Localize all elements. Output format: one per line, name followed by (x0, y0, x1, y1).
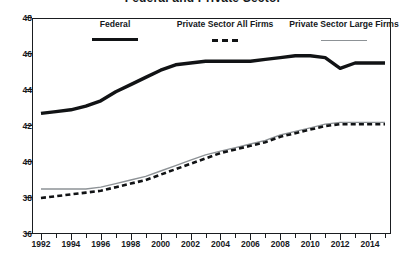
legend-line-sample (92, 38, 138, 41)
y-axis-label: 48 (8, 14, 32, 23)
x-axis-minor-tick (295, 234, 296, 238)
x-axis-minor-tick (206, 234, 207, 238)
y-axis-label: 42 (8, 122, 32, 131)
plot-lines (32, 18, 391, 234)
series-line (41, 124, 385, 198)
legend-line-sample (212, 39, 238, 42)
x-axis-minor-tick (265, 234, 266, 238)
legend-swatch-solid-thin-gray (264, 35, 406, 43)
x-axis-minor-tick (146, 234, 147, 238)
y-axis-label: 44 (8, 86, 32, 95)
chart-container: Federal and Private Sector 3638404244464… (0, 0, 406, 261)
x-axis-minor-tick (235, 234, 236, 238)
x-axis-minor-tick (385, 234, 386, 238)
chart-title: Federal and Private Sector (0, 0, 406, 3)
x-axis-minor-tick (86, 234, 87, 238)
x-axis-minor-tick (176, 234, 177, 238)
x-axis-minor-tick (325, 234, 326, 238)
legend-line-sample (321, 40, 367, 41)
y-axis-label: 36 (8, 230, 32, 239)
x-axis-label: 2014 (352, 240, 388, 249)
chart-legend: FederalPrivate Sector All FirmsPrivate S… (32, 20, 391, 46)
legend-label: Private Sector Large Firms (264, 20, 406, 29)
x-axis-minor-tick (56, 234, 57, 238)
x-axis-minor-tick (355, 234, 356, 238)
x-axis-minor-tick (116, 234, 117, 238)
y-axis-label: 40 (8, 158, 32, 167)
series-line (41, 122, 385, 189)
series-line (41, 56, 385, 114)
y-axis-label: 46 (8, 50, 32, 59)
legend-item[interactable]: Private Sector Large Firms (264, 20, 406, 43)
y-axis-label: 38 (8, 194, 32, 203)
